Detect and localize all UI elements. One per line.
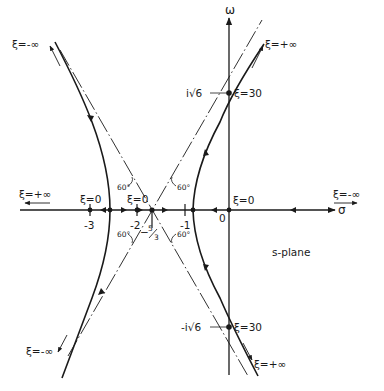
arrow-ra-2 (121, 207, 127, 213)
centroid-point (149, 207, 154, 212)
breakaway-right (191, 208, 196, 213)
arrow-left-lower (98, 288, 105, 295)
centroid-label: − 5 3 (140, 224, 159, 242)
origin-label: 0 (219, 212, 226, 224)
crossing-upper-imag: i√6 (186, 87, 203, 99)
arrow-ra-6 (290, 207, 296, 213)
end-label-lower-right: ξ=+∞ (254, 358, 286, 370)
tick-label-minus3: -3 (84, 219, 94, 231)
root-locus-diagram: σ ω 0 (0, 0, 384, 391)
pole-minus2 (135, 208, 140, 213)
arrow-ra-4 (162, 207, 168, 213)
crossing-upper-xi: ξ=30 (234, 87, 262, 99)
end-label-lower-left: ξ=-∞ (26, 345, 53, 357)
end-arrow-lower-right (243, 343, 252, 360)
crossing-lower-xi: ξ=30 (234, 321, 262, 333)
end-label-upper-right: ξ=+∞ (265, 38, 297, 50)
crossing-lower-imag: -i√6 (181, 321, 201, 333)
end-arrow-upper-right (252, 46, 263, 68)
omega-label: ω (225, 3, 235, 17)
pole-label-minus3: ξ=0 (80, 193, 101, 205)
plane-label: s-plane (272, 246, 310, 258)
svg-text:5: 5 (148, 224, 153, 233)
sigma-label: σ (338, 203, 346, 217)
arrow-left-upper (87, 115, 94, 122)
axes (20, 18, 335, 375)
end-label-real-right: ξ=-∞ (333, 188, 360, 200)
pole-origin (227, 208, 232, 213)
branch-arrows (87, 115, 209, 295)
end-label-upper-left: ξ=-∞ (12, 38, 39, 50)
angle-label-lower-right: 60° (177, 230, 191, 239)
arrow-ra-1 (100, 207, 106, 213)
arrow-ra-5 (211, 207, 217, 213)
tick-label-minus2: -2 (130, 219, 140, 231)
breakaway-left (108, 208, 113, 213)
svg-text:3: 3 (154, 233, 159, 242)
pole-label-origin: ξ=0 (233, 194, 254, 206)
end-label-real-left: ξ=+∞ (19, 188, 51, 200)
pole-label-minus2: ξ=0 (127, 193, 148, 205)
angle-label-upper-left: 60° (117, 183, 131, 192)
pole-minus3 (88, 208, 93, 213)
end-arrow-lower-left (58, 335, 67, 352)
asymptote-positive-slope (68, 20, 262, 356)
angle-label-upper-right: 60° (177, 183, 191, 192)
angle-label-lower-left: 60° (117, 230, 131, 239)
